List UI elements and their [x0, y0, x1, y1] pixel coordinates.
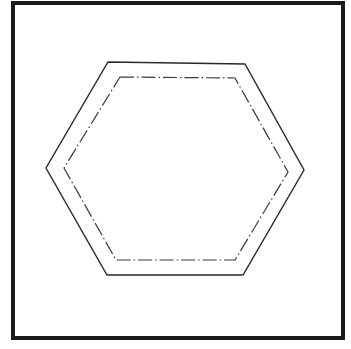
figure-frame: [13, 3, 343, 338]
hexagon-figure: [0, 0, 351, 349]
outer-hexagon-outline: [46, 62, 304, 275]
inner-hexagon-dash-dot-line: [64, 77, 288, 260]
